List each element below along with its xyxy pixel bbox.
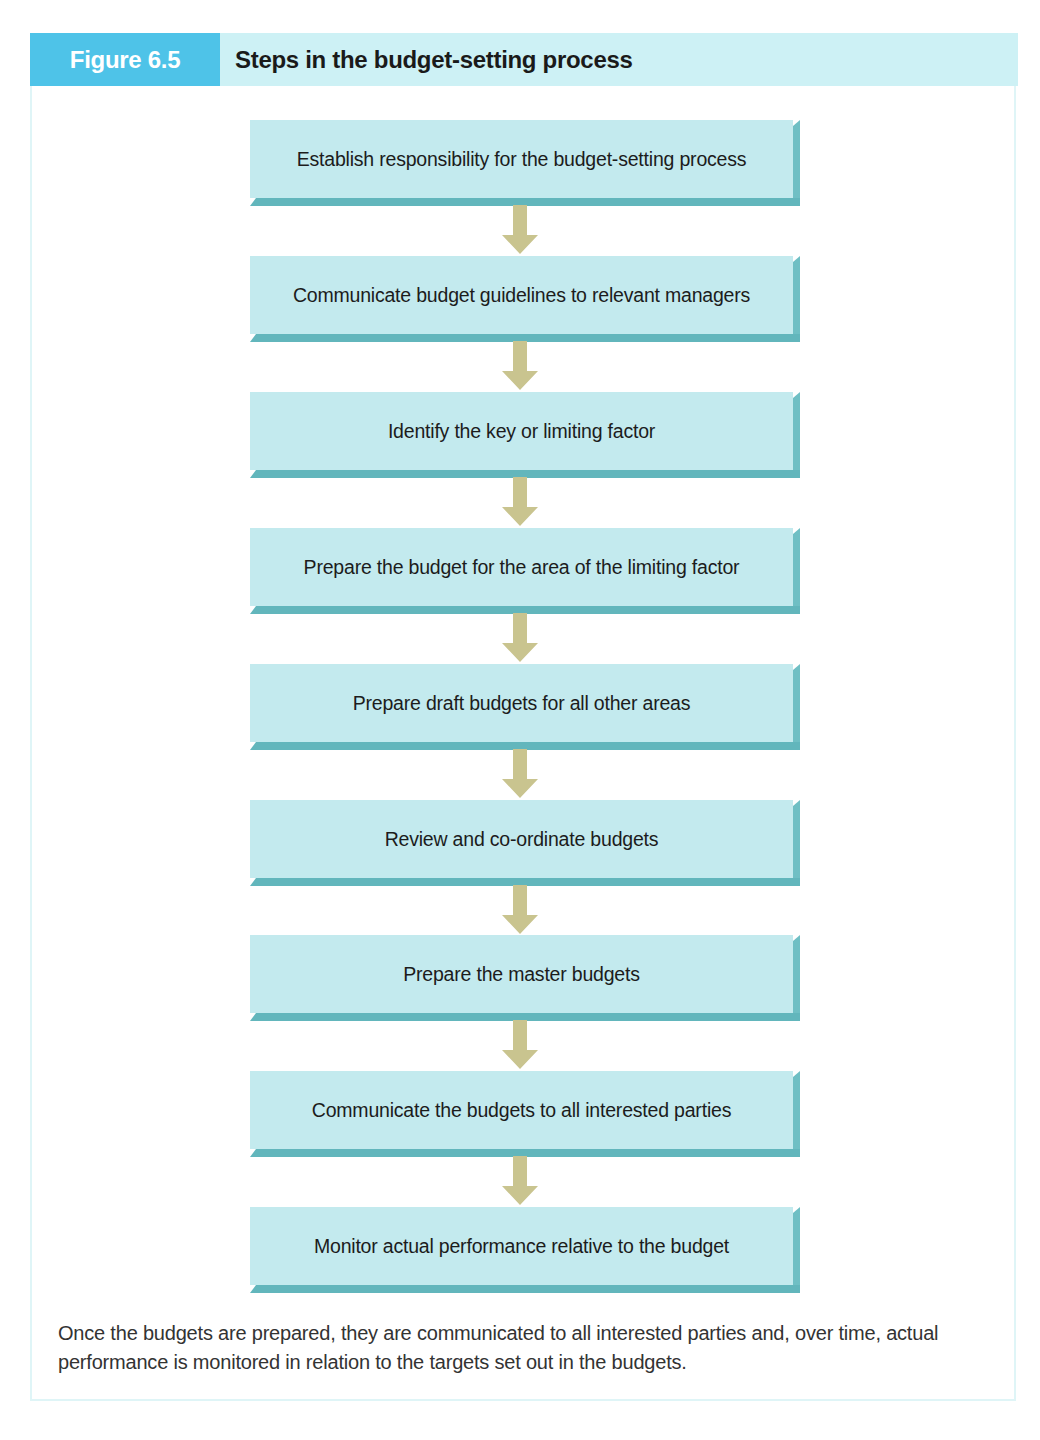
arrow-down-icon <box>501 341 539 391</box>
arrow-down-icon <box>501 1156 539 1206</box>
step-label: Communicate budget guidelines to relevan… <box>250 256 793 334</box>
step-label: Identify the key or limiting factor <box>250 392 793 470</box>
box-edge-right <box>793 392 800 478</box>
step-label: Establish responsibility for the budget-… <box>250 120 793 198</box>
flow-step-identify-limiting-factor: Identify the key or limiting factor <box>250 392 800 478</box>
arrow-down-icon <box>501 477 539 527</box>
box-edge-right <box>793 528 800 614</box>
figure-caption: Once the budgets are prepared, they are … <box>58 1319 1008 1377</box>
arrow-down-icon <box>501 1020 539 1070</box>
step-label: Prepare draft budgets for all other area… <box>250 664 793 742</box>
flow-step-review-coordinate: Review and co-ordinate budgets <box>250 800 800 886</box>
figure-header: Figure 6.5 Steps in the budget-setting p… <box>30 33 1018 86</box>
step-label: Prepare the master budgets <box>250 935 793 1013</box>
box-edge-right <box>793 935 800 1021</box>
figure-title: Steps in the budget-setting process <box>235 46 633 74</box>
box-edge-right <box>793 120 800 206</box>
box-edge-right <box>793 256 800 342</box>
arrow-down-icon <box>501 205 539 255</box>
step-label: Monitor actual performance relative to t… <box>250 1207 793 1285</box>
arrow-down-icon <box>501 749 539 799</box>
flow-step-prepare-master-budgets: Prepare the master budgets <box>250 935 800 1021</box>
box-edge-right <box>793 1207 800 1293</box>
box-edge-right <box>793 1071 800 1157</box>
step-label: Communicate the budgets to all intereste… <box>250 1071 793 1149</box>
flow-step-communicate-budgets: Communicate the budgets to all intereste… <box>250 1071 800 1157</box>
box-edge-right <box>793 800 800 886</box>
flow-step-establish-responsibility: Establish responsibility for the budget-… <box>250 120 800 206</box>
figure-number-label: Figure 6.5 <box>30 33 220 86</box>
flow-step-communicate-guidelines: Communicate budget guidelines to relevan… <box>250 256 800 342</box>
box-edge-bottom <box>250 1285 800 1293</box>
flow-step-monitor-performance: Monitor actual performance relative to t… <box>250 1207 800 1293</box>
flow-step-prepare-draft-budgets: Prepare draft budgets for all other area… <box>250 664 800 750</box>
arrow-down-icon <box>501 613 539 663</box>
step-label: Review and co-ordinate budgets <box>250 800 793 878</box>
arrow-down-icon <box>501 885 539 935</box>
box-edge-right <box>793 664 800 750</box>
flow-step-prepare-limiting-budget: Prepare the budget for the area of the l… <box>250 528 800 614</box>
step-label: Prepare the budget for the area of the l… <box>250 528 793 606</box>
